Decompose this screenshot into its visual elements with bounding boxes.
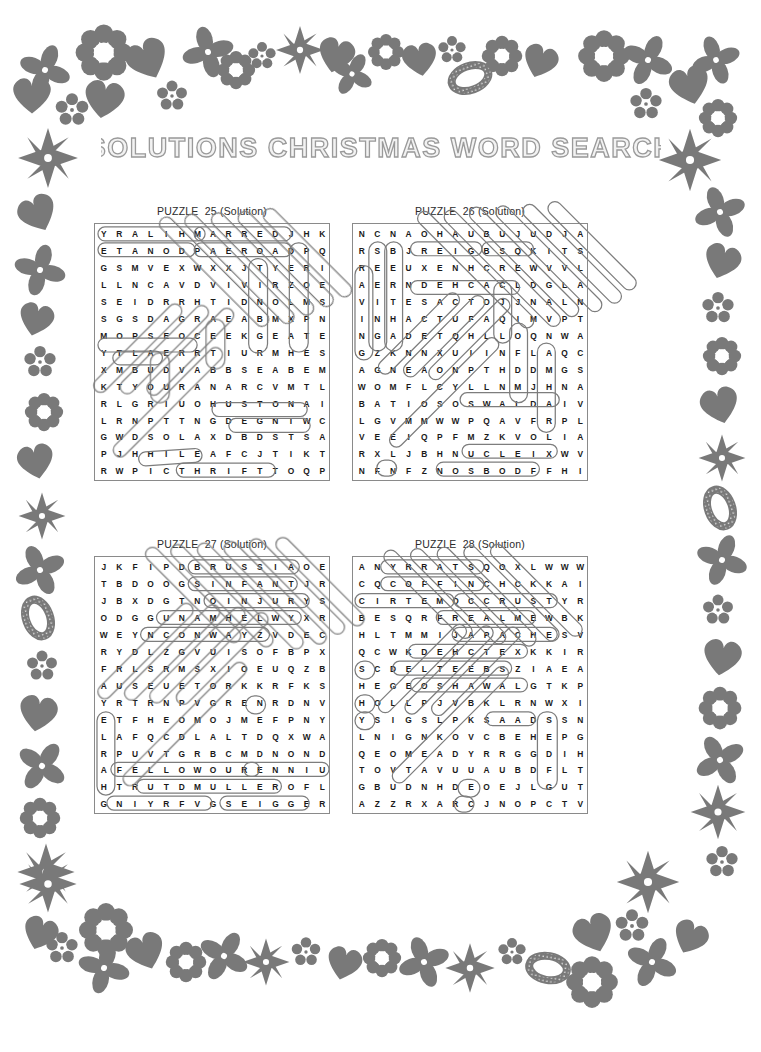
grid-cell: Y <box>143 796 159 813</box>
grid-cell: A <box>354 361 370 378</box>
grid-cell: N <box>385 361 401 378</box>
grid-cell: J <box>96 593 112 610</box>
grid-cell: C <box>158 627 174 644</box>
grid-cell: D <box>174 559 190 576</box>
puzzle-26-grid[interactable]: NCNAOHAUBUJUDJARSBJREIGBSQKITSREEUXENHCR… <box>352 223 588 481</box>
grid-cell: X <box>416 796 432 813</box>
puzzle-26-letters: NCNAOHAUBUJUDJARSBJREIGBSQKITSREEUXENHCR… <box>353 224 589 482</box>
grid-cell: L <box>494 328 510 345</box>
grid-cell: V <box>143 260 159 277</box>
grid-cell: K <box>314 226 330 243</box>
grid-cell: P <box>314 463 330 480</box>
grid-cell: D <box>190 277 206 294</box>
grid-cell: W <box>112 429 128 446</box>
grid-cell: B <box>205 745 221 762</box>
grid-cell: U <box>448 311 464 328</box>
grid-cell: U <box>448 762 464 779</box>
grid-cell: R <box>268 277 284 294</box>
grid-cell: D <box>112 610 128 627</box>
puzzle-25: PUZZLE 25 (Solution) YRALIHMARREDJHKETAN… <box>94 205 330 481</box>
grid-cell: Q <box>268 728 284 745</box>
grid-cell: M <box>299 294 315 311</box>
grid-cell: A <box>510 711 526 728</box>
grid-cell: L <box>494 694 510 711</box>
grid-cell: T <box>112 243 128 260</box>
grid-cell: E <box>370 678 386 695</box>
grid-cell: T <box>385 627 401 644</box>
grid-cell: R <box>236 243 252 260</box>
grid-cell: N <box>416 728 432 745</box>
grid-cell: T <box>432 328 448 345</box>
grid-cell: N <box>354 328 370 345</box>
grid-cell: A <box>205 243 221 260</box>
grid-cell: O <box>510 796 526 813</box>
grid-cell: Y <box>127 627 143 644</box>
grid-cell: T <box>557 243 573 260</box>
grid-cell: T <box>541 593 557 610</box>
grid-cell: L <box>385 446 401 463</box>
grid-cell: E <box>370 745 386 762</box>
grid-cell: P <box>143 412 159 429</box>
grid-cell: Y <box>236 627 252 644</box>
grid-cell: U <box>221 762 237 779</box>
grid-cell: E <box>448 661 464 678</box>
grid-cell: F <box>127 728 143 745</box>
grid-cell: H <box>448 678 464 695</box>
grid-cell: Z <box>252 627 268 644</box>
grid-cell: R <box>174 378 190 395</box>
grid-cell: S <box>268 429 284 446</box>
puzzle-27-grid[interactable]: JKFIPDBRUSSIAOETBDOOGSINFANTJRJBXDGTNOIN… <box>94 556 330 814</box>
puzzle-27-letters: JKFIPDBRUSSIAOETBDOOGSINFANTJRJBXDGTNOIN… <box>95 557 331 815</box>
grid-cell: H <box>127 446 143 463</box>
grid-cell: R <box>448 796 464 813</box>
grid-cell: N <box>127 412 143 429</box>
grid-cell: A <box>190 378 206 395</box>
grid-cell: E <box>370 277 386 294</box>
grid-cell: G <box>127 610 143 627</box>
grid-cell: P <box>557 412 573 429</box>
grid-cell: M <box>127 260 143 277</box>
grid-cell: E <box>541 627 557 644</box>
grid-cell: D <box>174 728 190 745</box>
grid-cell: U <box>385 779 401 796</box>
grid-cell: E <box>314 277 330 294</box>
grid-cell: T <box>463 294 479 311</box>
grid-cell: C <box>252 378 268 395</box>
grid-cell: T <box>299 378 315 395</box>
grid-cell: Y <box>314 711 330 728</box>
grid-cell: H <box>143 711 159 728</box>
grid-cell: Y <box>448 378 464 395</box>
grid-cell: L <box>401 694 417 711</box>
grid-cell: N <box>127 277 143 294</box>
grid-cell: L <box>190 728 206 745</box>
grid-cell: K <box>541 576 557 593</box>
grid-cell: O <box>448 593 464 610</box>
grid-cell: R <box>205 463 221 480</box>
grid-cell: R <box>283 593 299 610</box>
grid-cell: E <box>299 627 315 644</box>
grid-cell: P <box>416 694 432 711</box>
grid-cell: J <box>112 446 128 463</box>
grid-cell: P <box>158 559 174 576</box>
grid-cell: N <box>494 378 510 395</box>
grid-cell: E <box>252 661 268 678</box>
grid-cell: T <box>283 429 299 446</box>
grid-cell: G <box>252 328 268 345</box>
grid-cell: G <box>385 678 401 695</box>
grid-cell: J <box>299 576 315 593</box>
puzzle-28-grid[interactable]: ANYRRATSQOXLWWWCQCOFFINCHCKKAICIRTEMOCCR… <box>352 556 588 814</box>
grid-cell: W <box>205 627 221 644</box>
grid-cell: M <box>190 226 206 243</box>
grid-cell: C <box>463 277 479 294</box>
grid-cell: L <box>96 412 112 429</box>
grid-cell: D <box>401 328 417 345</box>
puzzle-25-grid[interactable]: YRALIHMARREDJHKETANODPAEROADPQGSMVEXWXXJ… <box>94 223 330 481</box>
grid-cell: L <box>283 294 299 311</box>
grid-cell: E <box>112 627 128 644</box>
grid-cell: R <box>96 395 112 412</box>
grid-cell: Z <box>283 277 299 294</box>
grid-cell: A <box>557 576 573 593</box>
grid-cell: R <box>112 226 128 243</box>
grid-cell: L <box>112 395 128 412</box>
grid-cell: U <box>158 378 174 395</box>
